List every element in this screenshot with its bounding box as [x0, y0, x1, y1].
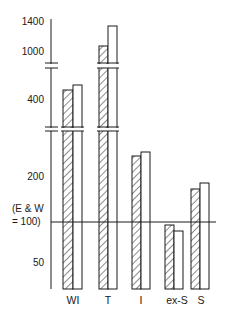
bar-chart: 1400 1000 400 200 (E & W = 100) 50	[0, 0, 227, 321]
category-label-wi: WI	[67, 294, 80, 306]
bar-group-ex-s	[165, 225, 183, 289]
category-label-i: I	[140, 294, 143, 306]
bar-group-i	[132, 152, 150, 289]
tick-label-1000: 1000	[22, 46, 45, 57]
tick-label-200: 200	[27, 171, 44, 182]
bar-group-s	[191, 183, 209, 289]
reference-label-line1: (E & W	[12, 203, 44, 214]
tick-label-400: 400	[27, 94, 44, 105]
reference-label-line2: = 100)	[12, 216, 41, 227]
category-label-ex-s: ex-S	[166, 294, 188, 306]
tick-label-1400: 1400	[22, 16, 45, 27]
tick-label-50: 50	[33, 257, 45, 268]
category-label-s: S	[197, 294, 204, 306]
category-label-t: T	[105, 294, 112, 306]
bar-group-wi	[63, 85, 82, 289]
